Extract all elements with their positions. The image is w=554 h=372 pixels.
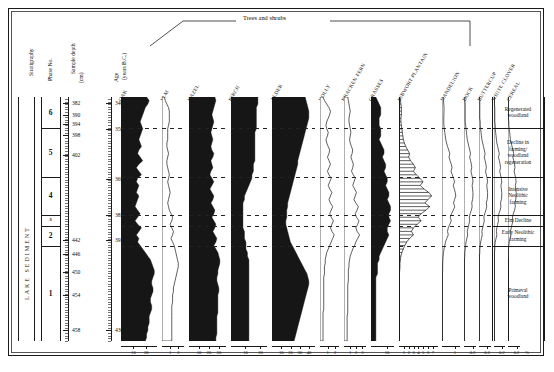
depth-sample-tick bbox=[65, 289, 68, 290]
depth-sample-tick bbox=[65, 242, 68, 243]
taxon-curve-0 bbox=[121, 97, 158, 341]
age-sample-tick bbox=[108, 208, 111, 209]
depth-sample-tick bbox=[65, 125, 68, 126]
taxon-curve-8 bbox=[399, 97, 437, 341]
depth-sample-tick bbox=[65, 265, 68, 266]
interpretation-zone-line: Decline in bbox=[492, 139, 544, 146]
taxon-curve-9 bbox=[442, 97, 459, 341]
taxon-scale-bar-3 bbox=[231, 346, 268, 347]
age-sample-tick bbox=[108, 167, 111, 168]
sample-depth-header-line1: Sample depth bbox=[70, 22, 76, 96]
depth-sample-tick bbox=[65, 161, 68, 162]
zone-marker bbox=[399, 128, 437, 129]
zone-marker bbox=[479, 128, 491, 129]
age-sample-tick bbox=[108, 336, 111, 337]
age-sample-tick bbox=[108, 213, 111, 214]
percent-symbol: % bbox=[522, 350, 532, 355]
zone-marker bbox=[442, 177, 459, 178]
interpretation-zone-line: Neolithic bbox=[492, 192, 544, 199]
interpretation-zone-line: Elm Decline bbox=[492, 217, 544, 224]
age-sample-tick bbox=[108, 206, 111, 207]
depth-sample-tick bbox=[65, 232, 68, 233]
depth-sample-tick bbox=[65, 263, 68, 264]
depth-sample-tick bbox=[65, 128, 68, 129]
zone-marker bbox=[189, 215, 226, 216]
depth-sample-tick bbox=[65, 164, 68, 165]
depth-sample-tick bbox=[65, 341, 68, 342]
age-sample-tick bbox=[108, 232, 111, 233]
depth-sample-tick bbox=[65, 315, 68, 316]
depth-sample-tick bbox=[65, 307, 68, 308]
pollen-diagram-figure: Trees and shrubs Stratigraphy Phase No. … bbox=[0, 0, 554, 372]
age-sample-tick bbox=[108, 138, 111, 139]
zone-marker bbox=[399, 215, 437, 216]
zone-marker bbox=[162, 128, 184, 129]
taxon-scale-tick bbox=[428, 346, 429, 349]
depth-sample-tick bbox=[65, 268, 68, 269]
zone-marker bbox=[464, 226, 476, 227]
age-sample-tick bbox=[108, 130, 111, 131]
interpretation-zone-line: woodland bbox=[492, 293, 544, 300]
depth-sample-tick bbox=[65, 333, 68, 334]
depth-sample-tick bbox=[65, 107, 68, 108]
age-sample-tick bbox=[108, 182, 111, 183]
depth-sample-tick bbox=[65, 245, 68, 246]
depth-sample-tick bbox=[65, 193, 68, 194]
age-sample-tick bbox=[108, 143, 111, 144]
age-sample-tick bbox=[108, 315, 111, 316]
age-sample-tick bbox=[108, 304, 111, 305]
age-sample-tick bbox=[108, 187, 111, 188]
age-sample-tick bbox=[108, 252, 111, 253]
age-sample-tick bbox=[108, 265, 111, 266]
depth-sample-tick bbox=[65, 172, 68, 173]
taxon-scale-label: 20 bbox=[253, 350, 267, 355]
depth-sample-tick bbox=[65, 148, 68, 149]
phase-column-rule bbox=[60, 97, 61, 341]
age-sample-tick bbox=[108, 289, 111, 290]
depth-sample-tick bbox=[65, 99, 68, 100]
interpretation-zone-line: Early Neolithic bbox=[492, 229, 544, 236]
taxon-scale-label: 0.2 bbox=[480, 350, 494, 355]
age-sample-tick bbox=[108, 325, 111, 326]
depth-sample-tick bbox=[65, 216, 68, 217]
depth-sample-tick bbox=[65, 138, 68, 139]
taxon-scale-tick bbox=[219, 346, 220, 349]
age-sample-tick bbox=[108, 133, 111, 134]
depth-sample-tick bbox=[65, 208, 68, 209]
zone-marker bbox=[272, 226, 315, 227]
zone-marker bbox=[371, 177, 395, 178]
zone-marker bbox=[320, 246, 339, 247]
age-sample-tick bbox=[108, 302, 111, 303]
zone-marker bbox=[231, 246, 268, 247]
zone-marker bbox=[442, 128, 459, 129]
taxon-scale-bar-9 bbox=[442, 346, 459, 347]
age-sample-tick bbox=[108, 185, 111, 186]
age-sample-tick bbox=[108, 221, 111, 222]
taxon-scale-tick bbox=[178, 346, 179, 349]
depth-sample-tick bbox=[65, 174, 68, 175]
phase-divider bbox=[41, 177, 61, 178]
age-sample-tick bbox=[108, 161, 111, 162]
taxon-scale-tick bbox=[356, 346, 357, 349]
depth-sample-tick bbox=[65, 260, 68, 261]
zone-marker bbox=[371, 226, 395, 227]
taxon-scale-tick bbox=[146, 346, 147, 349]
interpretation-divider bbox=[492, 215, 544, 216]
depth-sample-tick bbox=[65, 252, 68, 253]
age-sample-tick bbox=[108, 299, 111, 300]
age-sample-tick bbox=[108, 234, 111, 235]
taxon-scale-tick bbox=[309, 346, 310, 349]
sample-depth-header-line2: (cm) bbox=[78, 60, 84, 96]
taxon-scale-label: 0.2 bbox=[466, 350, 480, 355]
interpretation-zone-line: farming bbox=[492, 199, 544, 206]
interpretation-zone-4: Early Neolithicfarming bbox=[492, 229, 544, 242]
taxon-scale-label: 0.2 bbox=[495, 350, 509, 355]
depth-sample-tick bbox=[65, 180, 68, 181]
zone-marker bbox=[231, 177, 268, 178]
zone-marker bbox=[121, 246, 158, 247]
age-sample-tick bbox=[108, 99, 111, 100]
phase-number: 2 bbox=[41, 231, 60, 240]
taxon-scale-bar-11 bbox=[479, 346, 491, 347]
stratigraphy-value: LAKE SEDIMENT bbox=[24, 150, 30, 300]
age-sample-tick bbox=[108, 247, 111, 248]
